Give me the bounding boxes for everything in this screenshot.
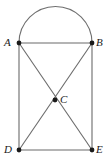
- vertex-dot-e: [90, 148, 95, 153]
- vertex-label-b: B: [96, 37, 103, 48]
- geometry-canvas: [0, 0, 109, 166]
- vertex-label-a: A: [4, 37, 11, 48]
- vertex-dot-d: [17, 148, 22, 153]
- vertex-dot-b: [90, 41, 95, 46]
- vertex-label-c: C: [60, 94, 67, 105]
- vertex-dot-c: [53, 98, 58, 103]
- vertex-dot-a: [17, 41, 22, 46]
- vertex-label-d: D: [4, 144, 12, 155]
- semicircle-arc-ab: [19, 7, 92, 44]
- geometry-figure: A B C D E: [0, 0, 109, 166]
- vertex-label-e: E: [96, 144, 103, 155]
